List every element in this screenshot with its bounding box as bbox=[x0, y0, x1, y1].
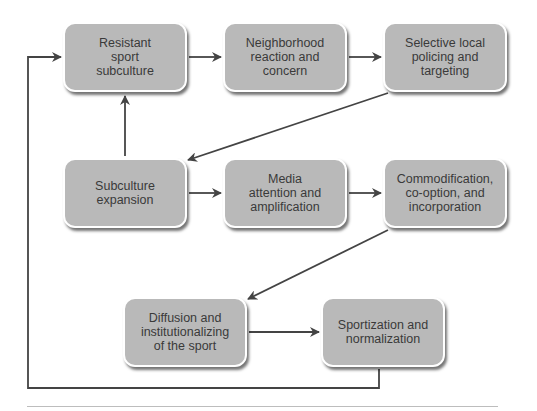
arrow-commodification-to-diffusion bbox=[248, 230, 388, 299]
bottom-divider bbox=[27, 406, 498, 407]
node-subculture-expansion: Subculture expansion bbox=[63, 158, 187, 228]
node-label: Media attention and amplification bbox=[249, 172, 321, 214]
node-label: Selective local policing and targeting bbox=[405, 36, 485, 78]
node-media-attention: Media attention and amplification bbox=[223, 158, 347, 228]
node-label: Subculture expansion bbox=[95, 179, 155, 207]
node-label: Diffusion and institutionalizing of the … bbox=[141, 311, 229, 353]
node-selective-local-policing: Selective local policing and targeting bbox=[383, 22, 507, 92]
node-label: Neighborhood reaction and concern bbox=[246, 36, 325, 78]
node-label: Commodification, co-option, and incorpor… bbox=[397, 172, 494, 214]
node-neighborhood-reaction: Neighborhood reaction and concern bbox=[223, 22, 347, 92]
node-commodification: Commodification, co-option, and incorpor… bbox=[383, 158, 507, 228]
node-resistant-sport-subculture: Resistant sport subculture bbox=[63, 22, 187, 92]
arrow-policing-to-expansion bbox=[188, 93, 388, 160]
node-label: Sportization and normalization bbox=[338, 318, 428, 346]
flow-diagram: Resistant sport subculture Neighborhood … bbox=[0, 0, 537, 411]
node-diffusion-institutionalizing: Diffusion and institutionalizing of the … bbox=[123, 297, 247, 367]
node-label: Resistant sport subculture bbox=[96, 36, 154, 78]
node-sportization-normalization: Sportization and normalization bbox=[321, 297, 445, 367]
